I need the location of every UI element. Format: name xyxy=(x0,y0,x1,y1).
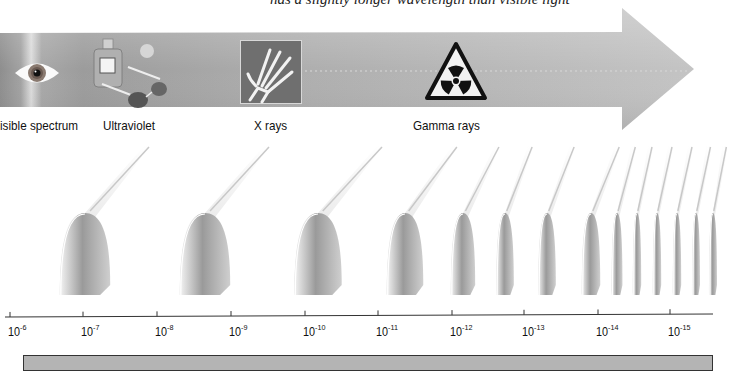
wavelength-ribbon-illustration xyxy=(0,145,739,295)
tick-label: 10-11 xyxy=(376,323,398,339)
tick-label: 10-6 xyxy=(8,323,26,339)
label-ultraviolet: Ultraviolet xyxy=(103,118,155,133)
bottom-bar xyxy=(23,355,713,371)
tick-label: 10-13 xyxy=(522,323,544,339)
label-gamma-rays: Gamma rays xyxy=(413,118,480,133)
label-visible-spectrum: isible spectrum xyxy=(0,118,78,133)
sunscreen-sunglasses-icon xyxy=(88,37,170,113)
tick-label: 10-14 xyxy=(596,323,618,339)
radiation-warning-icon xyxy=(424,41,488,101)
tick-label: 10-10 xyxy=(303,323,325,339)
tick-label: 10-7 xyxy=(81,323,99,339)
wavelength-axis xyxy=(0,300,739,340)
tick-label: 10-8 xyxy=(155,323,173,339)
label-x-rays: X rays xyxy=(254,118,287,133)
tick-label: 10-9 xyxy=(229,323,247,339)
tick-label: 10-12 xyxy=(450,323,472,339)
xray-hand-icon xyxy=(240,40,302,104)
tick-label: 10-15 xyxy=(668,323,690,339)
eye-icon xyxy=(14,58,60,88)
